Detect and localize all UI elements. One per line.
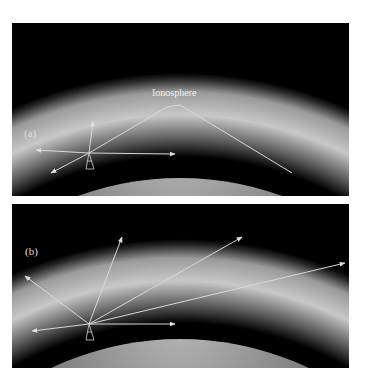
panel-label-b: (b): [25, 245, 38, 258]
panel-label-a: (a): [24, 127, 37, 140]
panel-b-diagram: (b): [12, 204, 349, 368]
ionosphere-label: Ionosphere: [152, 87, 197, 98]
panel-a-diagram: (a) Ionosphere: [12, 23, 349, 196]
panel-b: (b): [12, 204, 349, 368]
ionosphere-layer: [12, 23, 349, 196]
panel-a: (a) Ionosphere: [12, 23, 349, 196]
